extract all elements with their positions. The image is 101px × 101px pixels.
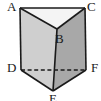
vertex-label-a: A	[7, 0, 16, 13]
edge-cf	[85, 8, 86, 70]
geometry-figure: A C B D F E	[0, 0, 101, 101]
vertex-label-b: B	[55, 32, 64, 45]
vertex-label-c: C	[87, 0, 96, 13]
vertex-label-f: F	[91, 61, 98, 74]
triangular-prism-drawing	[0, 0, 101, 101]
edge-ad	[20, 8, 21, 70]
vertex-label-d: D	[7, 61, 16, 74]
vertex-label-e: E	[49, 92, 57, 101]
